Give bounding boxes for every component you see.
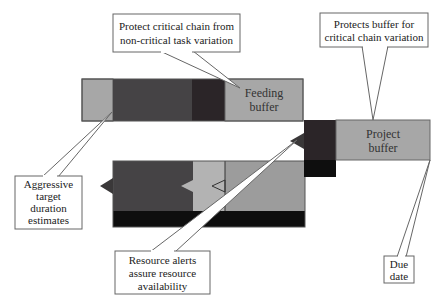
callout-text-line: estimates [28, 214, 69, 226]
callout-due-date: Due date [384, 160, 430, 283]
callout-text-line: target [36, 190, 61, 202]
callout-text-line: critical chain variation [325, 31, 424, 43]
project-buffer-bar: Project buffer [290, 120, 430, 177]
task-segment-darkest [192, 79, 225, 121]
callout-text-line: assure resource [129, 267, 197, 279]
project-buffer-label: Project [366, 127, 401, 141]
last-task-dark [304, 120, 336, 160]
callout-protect-critical-chain: Protect critical chain from non-critical… [113, 14, 240, 88]
callout-text-line: Aggressive [24, 178, 74, 190]
last-task-black [304, 160, 336, 177]
callout-text-line: Protects buffer for [334, 18, 415, 30]
feeding-chain-bar: Feeding buffer [82, 79, 303, 121]
callout-text-line: Due [390, 258, 408, 270]
critical-chain-diagram: Feeding buffer Project buffer Protect cr… [0, 0, 443, 306]
callout-aggressive-estimates: Aggressive target duration estimates [15, 112, 112, 229]
callout-text-line: Resource alerts [129, 254, 197, 266]
feeding-buffer-label-2: buffer [249, 100, 278, 114]
callout-text-line: duration [30, 202, 67, 214]
task-segment-light [82, 79, 113, 121]
callout-text-line: non-critical task variation [120, 34, 234, 46]
project-buffer-label-2: buffer [368, 141, 397, 155]
callout-text-line: availability [138, 280, 188, 292]
resource-alert-triangle-project [290, 133, 304, 149]
callout-text-line: date [390, 270, 408, 282]
feeding-buffer-label: Feeding [245, 86, 284, 100]
resource-alert-triangle-left [100, 178, 113, 194]
task-segment-dark [113, 79, 192, 121]
callout-protects-buffer: Protects buffer for critical chain varia… [320, 13, 428, 120]
callout-text-line: Protect critical chain from [119, 20, 235, 32]
